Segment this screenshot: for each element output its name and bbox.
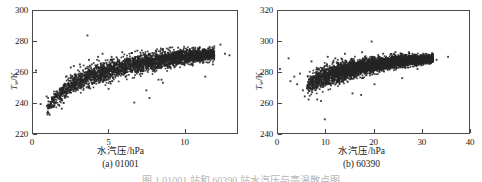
y-tick-label: 300	[6, 6, 28, 15]
plot-area-b	[278, 11, 469, 133]
y-axis-variable-a: T	[9, 85, 19, 90]
y-tick-label: 280	[6, 37, 28, 46]
figure-caption: 图 1 01001 站和 60390 站水汽压与亮温散点图	[0, 175, 482, 182]
x-axis-title-b: 水汽压/hPa	[241, 146, 482, 157]
panel-caption-a: (a) 01001	[0, 159, 241, 170]
figure-container: 2202402602803000510 Tw/K 水汽压/hPa (a) 010…	[0, 0, 482, 182]
panel-caption-b: (b) 60390	[241, 159, 482, 170]
x-tick-mark	[374, 129, 375, 133]
y-tick-mark	[33, 10, 37, 11]
y-tick-mark	[278, 10, 282, 11]
x-tick-mark	[470, 129, 471, 133]
y-tick-label: 240	[6, 99, 28, 108]
plot-frame-a	[32, 10, 238, 134]
x-axis-title-a: 水汽压/hPa	[0, 146, 241, 157]
y-tick-mark	[278, 134, 282, 135]
scatter-points-b	[278, 11, 469, 133]
scatter-panel-a: 2202402602803000510 Tw/K 水汽压/hPa (a) 010…	[0, 0, 241, 182]
plot-frame-b	[277, 10, 470, 134]
y-axis-variable-b: T	[254, 85, 264, 90]
y-tick-mark	[33, 72, 37, 73]
y-tick-mark	[33, 134, 37, 135]
y-tick-mark	[278, 72, 282, 73]
y-tick-label: 320	[251, 6, 273, 15]
plot-area-a	[33, 11, 237, 133]
scatter-panel-b: 240260280300320010203040 Tw/K 水汽压/hPa (b…	[241, 0, 482, 182]
y-tick-mark	[33, 41, 37, 42]
x-tick-mark	[422, 129, 423, 133]
y-tick-mark	[278, 103, 282, 104]
x-tick-mark	[325, 129, 326, 133]
y-tick-label: 300	[251, 37, 273, 46]
y-tick-mark	[33, 103, 37, 104]
y-axis-subscript-b: w	[257, 81, 264, 85]
y-tick-mark	[278, 41, 282, 42]
x-tick-mark	[108, 129, 109, 133]
y-axis-unit-a: /K	[9, 72, 19, 81]
scatter-points-a	[33, 11, 237, 133]
y-axis-title-b: Tw/K	[255, 72, 265, 90]
y-axis-title-a: Tw/K	[10, 72, 20, 90]
x-tick-mark	[185, 129, 186, 133]
y-axis-subscript-a: w	[12, 81, 19, 85]
y-tick-label: 260	[251, 99, 273, 108]
y-axis-unit-b: /K	[254, 72, 264, 81]
x-tick-mark	[32, 129, 33, 133]
x-tick-mark	[277, 129, 278, 133]
